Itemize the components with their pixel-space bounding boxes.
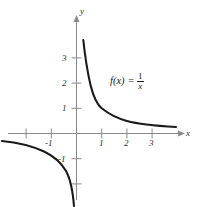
function-graph-figure: -1 1 2 3 3 2 1 -1 x y f(x) = 1 x: [0, 0, 197, 207]
y-tick-label-2: 2: [62, 79, 67, 88]
y-tick-label--1: -1: [58, 155, 66, 164]
x-tick-label-1: 1: [99, 139, 104, 148]
x-tick-label--1: -1: [45, 139, 53, 148]
function-annotation: f(x) = 1 x: [110, 72, 144, 91]
x-tick-label-3: 3: [149, 139, 154, 148]
fraction-numerator: 1: [137, 72, 144, 81]
x-axis-label: x: [186, 129, 190, 138]
y-axis-label: y: [80, 7, 84, 16]
function-fraction: 1 x: [137, 72, 144, 91]
graph-canvas: [0, 0, 197, 207]
x-axis-arrow: [178, 131, 185, 137]
y-tick-label-1: 1: [62, 104, 67, 113]
x-tick-label-2: 2: [124, 139, 129, 148]
y-axis-arrow: [74, 15, 80, 22]
fraction-denominator: x: [137, 82, 143, 91]
function-equals: =: [128, 76, 135, 87]
y-tick-label-3: 3: [62, 54, 67, 63]
curve-negative-branch: [2, 141, 74, 206]
function-lhs: f(x): [110, 76, 125, 87]
